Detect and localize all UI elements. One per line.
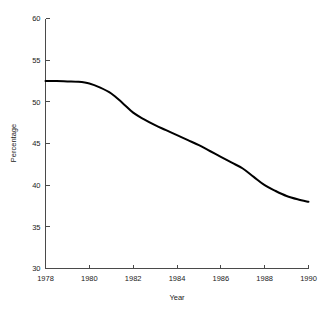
x-axis-title: Year [169, 293, 185, 302]
x-tick-label: 1982 [125, 274, 142, 283]
y-tick-label: 40 [32, 181, 40, 190]
y-axis-title: Percentage [9, 124, 18, 162]
y-tick-label: 45 [32, 139, 40, 148]
x-tick-label: 1980 [81, 274, 98, 283]
x-tick-label: 1990 [300, 274, 317, 283]
axis-tick-marks [46, 19, 309, 269]
data-series-line [46, 81, 309, 202]
x-tick-label: 1988 [256, 274, 273, 283]
y-tick-label: 50 [32, 98, 40, 107]
axis-lines [46, 19, 309, 269]
x-tick-label: 1986 [212, 274, 229, 283]
y-tick-label: 30 [32, 264, 40, 273]
y-tick-label: 55 [32, 56, 40, 65]
x-tick-label: 1978 [37, 274, 54, 283]
y-axis-tick-labels: 30354045505560 [32, 14, 40, 273]
x-axis-tick-labels: 1978198019821984198619881990 [37, 274, 317, 283]
y-tick-label: 60 [32, 14, 40, 23]
x-tick-label: 1984 [169, 274, 186, 283]
line-chart: 30354045505560 1978198019821984198619881… [0, 0, 329, 317]
y-tick-label: 35 [32, 223, 40, 232]
chart-container: 30354045505560 1978198019821984198619881… [0, 0, 329, 317]
